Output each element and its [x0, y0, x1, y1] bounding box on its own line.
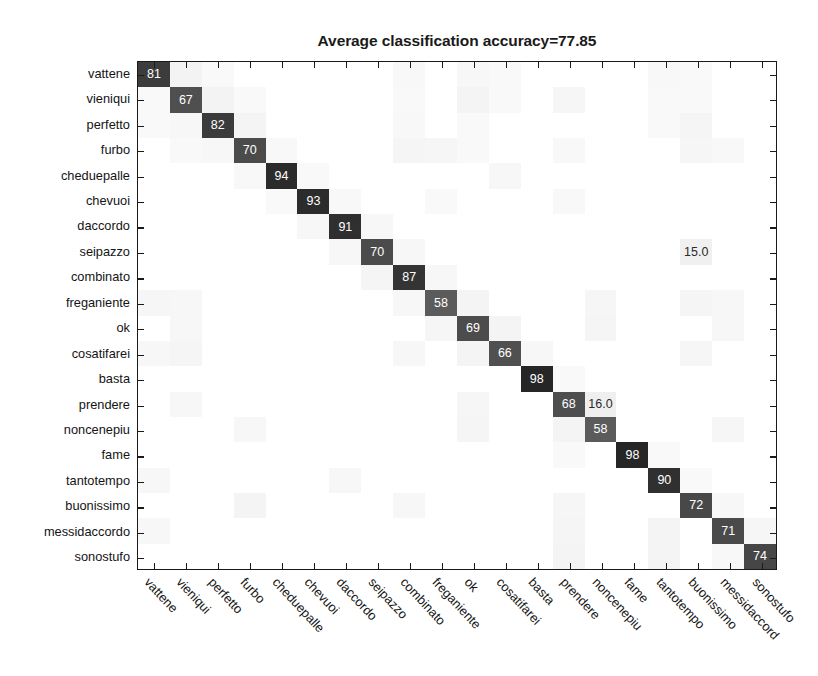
matrix-cell	[712, 468, 744, 493]
matrix-cell-value: 91	[329, 214, 361, 239]
confusion-matrix-figure: Average classification accuracy=77.85 va…	[0, 0, 818, 676]
matrix-cell	[202, 468, 234, 493]
matrix-cell	[425, 316, 457, 341]
matrix-cell	[393, 518, 425, 543]
matrix-cell	[425, 163, 457, 188]
matrix-cell	[266, 518, 298, 543]
matrix-cell	[457, 265, 489, 290]
matrix-cell	[616, 87, 648, 112]
matrix-cell	[521, 87, 553, 112]
x-tick-bottom	[378, 563, 379, 569]
matrix-cell	[202, 417, 234, 442]
matrix-cell	[616, 265, 648, 290]
matrix-cell	[393, 493, 425, 518]
y-axis-label: vieniqui	[87, 93, 130, 106]
matrix-cell	[361, 341, 393, 366]
x-tick-bottom	[474, 563, 475, 569]
cell-value-text: 68	[562, 398, 576, 411]
matrix-cell	[170, 163, 202, 188]
y-axis-label: cheduepalle	[61, 169, 130, 182]
matrix-cell	[329, 493, 361, 518]
matrix-cell	[234, 87, 266, 112]
y-tick-right	[770, 482, 776, 483]
matrix-cell	[553, 163, 585, 188]
y-axis-label: combinato	[71, 271, 130, 284]
matrix-cell	[521, 544, 553, 569]
y-axis-label: buonissimo	[65, 500, 130, 513]
x-tick-top	[218, 62, 219, 68]
matrix-cell	[585, 442, 617, 467]
matrix-cell	[712, 316, 744, 341]
cell-value-text: 70	[243, 144, 257, 157]
matrix-cell	[234, 366, 266, 391]
matrix-cell	[489, 442, 521, 467]
matrix-cell	[202, 138, 234, 163]
matrix-cell	[170, 138, 202, 163]
y-axis-label: cosatifarei	[72, 347, 130, 360]
matrix-cell	[234, 468, 266, 493]
matrix-cell	[585, 493, 617, 518]
cell-value-text: 82	[211, 119, 225, 132]
matrix-cell	[457, 113, 489, 138]
matrix-cell	[266, 265, 298, 290]
matrix-cell	[138, 493, 170, 518]
matrix-cell	[712, 62, 744, 87]
matrix-cell	[712, 290, 744, 315]
matrix-cell	[234, 518, 266, 543]
matrix-cell	[425, 113, 457, 138]
matrix-cell	[457, 493, 489, 518]
matrix-cell	[361, 316, 393, 341]
y-axis-label: sonostufo	[75, 551, 131, 564]
matrix-cell	[712, 87, 744, 112]
matrix-cell	[361, 214, 393, 239]
matrix-cell	[680, 544, 712, 569]
x-tick-bottom	[730, 563, 731, 569]
matrix-cell	[585, 265, 617, 290]
matrix-cell	[297, 316, 329, 341]
y-axis-label: seipazzo	[79, 245, 130, 258]
matrix-cell	[489, 163, 521, 188]
matrix-cell	[648, 87, 680, 112]
y-tick-left	[138, 533, 144, 534]
x-tick-bottom	[186, 563, 187, 569]
matrix-cell	[234, 163, 266, 188]
y-tick-left	[138, 329, 144, 330]
matrix-cell	[297, 442, 329, 467]
y-axis-label: furbo	[101, 144, 130, 157]
matrix-cell	[361, 442, 393, 467]
y-axis-label: daccordo	[77, 220, 130, 233]
x-tick-top	[666, 62, 667, 68]
matrix-cell	[457, 189, 489, 214]
matrix-cell	[297, 518, 329, 543]
matrix-cell	[585, 239, 617, 264]
matrix-cell	[170, 518, 202, 543]
y-axis-label: freganiente	[66, 296, 130, 309]
matrix-cell	[648, 392, 680, 417]
y-tick-right	[770, 253, 776, 254]
matrix-cell	[553, 518, 585, 543]
matrix-cell	[170, 189, 202, 214]
matrix-cell	[521, 239, 553, 264]
matrix-cell	[234, 341, 266, 366]
matrix-cell	[202, 316, 234, 341]
cell-value-text: 72	[689, 499, 703, 512]
matrix-cell	[393, 316, 425, 341]
x-axis-label: ok	[462, 576, 481, 595]
x-tick-top	[346, 62, 347, 68]
matrix-cell	[457, 417, 489, 442]
matrix-cell	[266, 239, 298, 264]
matrix-cell	[329, 518, 361, 543]
matrix-cell	[297, 341, 329, 366]
matrix-cell	[138, 366, 170, 391]
matrix-cell-value: 74	[744, 544, 776, 569]
cell-value-text: 98	[625, 449, 639, 462]
matrix-cell	[680, 62, 712, 87]
matrix-cell	[234, 316, 266, 341]
matrix-cell	[457, 442, 489, 467]
cell-value-text: 58	[594, 423, 608, 436]
matrix-cell	[648, 366, 680, 391]
matrix-cell	[170, 493, 202, 518]
matrix-cell	[489, 366, 521, 391]
matrix-cell	[553, 239, 585, 264]
matrix-cell	[329, 392, 361, 417]
